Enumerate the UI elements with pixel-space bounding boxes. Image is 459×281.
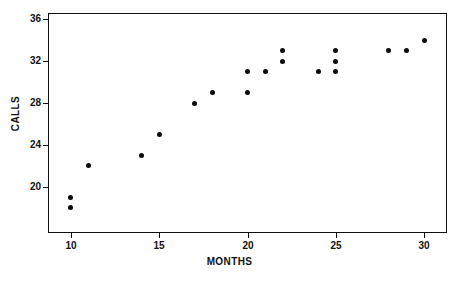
y-axis-tick-mark (43, 19, 48, 20)
y-axis-tick-mark (43, 187, 48, 188)
y-axis-tick-mark (43, 103, 48, 104)
y-axis-title: CALLS (10, 79, 21, 149)
x-axis-tick-label: 10 (54, 240, 88, 251)
y-axis-tick-mark (43, 145, 48, 146)
x-axis-tick-mark (71, 233, 72, 238)
x-axis-tick-mark (248, 233, 249, 238)
y-axis-tick-label: 32 (15, 55, 41, 66)
x-axis-tick-label: 20 (231, 240, 265, 251)
scatter-plot-figure: 2024283236 1015202530 MONTHS CALLS (0, 0, 459, 281)
x-axis-tick-mark (424, 233, 425, 238)
y-axis-tick-label: 36 (15, 13, 41, 24)
x-axis-tick-mark (336, 233, 337, 238)
plot-area-frame (48, 13, 447, 233)
y-axis-tick-label: 20 (15, 181, 41, 192)
x-axis-tick-label: 25 (319, 240, 353, 251)
x-axis-tick-label: 15 (142, 240, 176, 251)
x-axis-title: MONTHS (0, 256, 459, 267)
x-axis-tick-mark (159, 233, 160, 238)
x-axis-tick-label: 30 (407, 240, 441, 251)
y-axis-tick-mark (43, 61, 48, 62)
